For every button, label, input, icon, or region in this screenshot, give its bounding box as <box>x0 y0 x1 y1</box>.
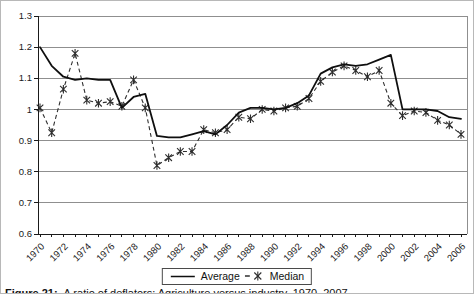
median-star-marker <box>95 99 102 108</box>
x-tick-label: 1990 <box>258 241 281 264</box>
x-tick-label: 1984 <box>187 241 210 264</box>
x-tick-label: 1992 <box>281 241 304 264</box>
median-star-marker <box>177 147 184 156</box>
y-tick-label: 1 <box>27 104 32 115</box>
x-tick-label: 1986 <box>211 241 234 264</box>
median-star-marker <box>72 49 79 58</box>
legend-label-median: Median <box>270 270 304 282</box>
x-tick-label: 1980 <box>141 241 164 264</box>
average-line-sample-icon <box>170 272 196 281</box>
median-star-marker <box>341 62 348 71</box>
x-tick-label: 2000 <box>375 241 398 264</box>
x-tick-label: 1996 <box>328 241 351 264</box>
y-tick-label: 1.3 <box>19 10 32 21</box>
x-tick-labels: 1970197219741976197819801982198419861988… <box>24 241 468 264</box>
x-tick-label: 1988 <box>234 241 257 264</box>
y-tick-label: 1.2 <box>19 41 32 52</box>
x-tick-label: 1970 <box>24 241 47 264</box>
x-tick-label: 2002 <box>398 241 421 264</box>
figure-caption: Figure 21:A ratio of deflators: Agricult… <box>5 287 473 294</box>
median-star-marker <box>434 116 441 125</box>
median-star-marker <box>130 76 137 85</box>
median-star-marker <box>411 107 418 116</box>
y-tick-label: 0.9 <box>19 135 32 146</box>
x-tick-label: 2006 <box>445 241 468 264</box>
median-star-marker <box>376 66 383 75</box>
x-tick-label: 1974 <box>70 241 93 264</box>
median-star-marker <box>271 107 278 116</box>
axes <box>34 16 467 237</box>
median-star-marker <box>458 130 465 139</box>
y-tick-label: 0.7 <box>19 197 32 208</box>
x-tick-label: 1972 <box>47 241 70 264</box>
x-tick-label: 1976 <box>94 241 117 264</box>
plot-canvas: 1.31.21.110.90.80.70.6197019721974197619… <box>1 1 474 267</box>
median-star-marker <box>107 97 114 106</box>
x-tick-label: 1994 <box>304 241 327 264</box>
median-line-sample-icon <box>245 270 265 282</box>
median-star-marker <box>446 121 453 130</box>
median-star-marker <box>48 128 55 137</box>
x-tick-label: 1978 <box>117 241 140 264</box>
x-tick-label: 2004 <box>421 241 444 264</box>
chart-area: 1.31.21.110.90.80.70.6197019721974197619… <box>0 0 474 294</box>
median-star-marker <box>83 96 90 105</box>
x-tick-label: 1982 <box>164 241 187 264</box>
figure-caption-number: Figure 21: <box>5 287 58 294</box>
median-star-marker <box>364 72 371 81</box>
median-star-marker <box>399 111 406 120</box>
gridlines <box>38 16 467 234</box>
median-star-marker <box>60 85 67 94</box>
median-star-marker <box>352 66 359 75</box>
y-tick-label: 0.6 <box>19 228 32 239</box>
median-star-marker <box>388 99 395 108</box>
y-tick-label: 0.8 <box>19 166 32 177</box>
median-star-marker <box>189 147 196 156</box>
x-tick-label: 1998 <box>351 241 374 264</box>
legend: Average Median <box>162 268 312 285</box>
legend-label-average: Average <box>201 270 240 282</box>
average-series-line <box>40 47 461 137</box>
y-tick-label: 1.1 <box>19 72 32 83</box>
figure-caption-text: A ratio of deflators: Agriculture versus… <box>64 287 348 294</box>
median-star-marker <box>165 153 172 162</box>
y-tick-labels: 1.31.21.110.90.80.70.6 <box>19 10 32 239</box>
median-star-marker <box>154 161 161 170</box>
